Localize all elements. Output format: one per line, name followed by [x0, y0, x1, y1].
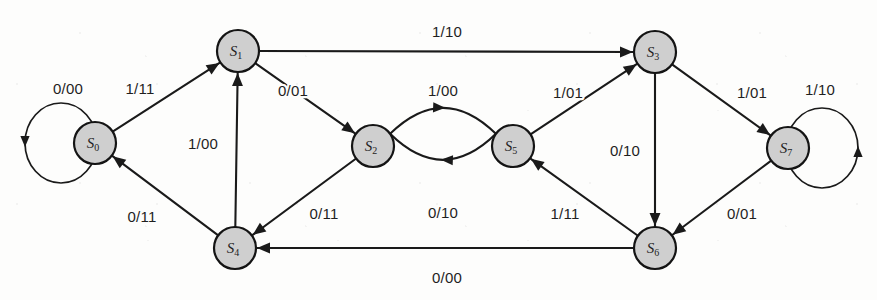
edge-S1-to-S2-label-text: 0/01	[278, 82, 308, 99]
state-node-s2[interactable]: S2	[352, 125, 394, 167]
edge-S4-to-S0-label: 0/110/11	[128, 208, 157, 225]
edge-S1-to-S2-arrowhead	[341, 121, 355, 133]
edge-S1-to-S3-label: 1/101/10	[432, 23, 462, 40]
node-layer: S0S1S2S3S4S5S6S7	[74, 30, 809, 269]
edge-S6-to-S4-arrowhead	[257, 243, 270, 254]
edge-S0-to-S0-arrowhead	[20, 136, 29, 147]
edge-S5-to-S2-arrowhead	[441, 155, 453, 165]
edge-S2-to-S4-label-text: 0/11	[310, 205, 339, 222]
state-node-s6[interactable]: S6	[634, 227, 676, 269]
edge-S6-to-S5-label-text: 1/11	[551, 205, 580, 222]
edge-S0-to-S1[interactable]	[113, 63, 220, 132]
edge-S1-to-S3-label-text: 1/10	[432, 23, 462, 40]
edge-S7-to-S7-arrowhead	[853, 146, 862, 157]
state-node-s0[interactable]: S0	[74, 122, 116, 164]
edge-S0-to-S0-label-text: 0/00	[53, 80, 83, 97]
edge-S3-to-S7-arrowhead	[756, 123, 770, 135]
state-subscript-s0: 0	[94, 142, 99, 153]
edge-S0-to-S1-label: 1/111/11	[126, 80, 155, 97]
edge-S2-to-S5-arrowhead	[433, 102, 445, 112]
edge-S6-to-S4-label: 0/000/00	[432, 269, 462, 286]
edge-S1-to-S3-arrowhead	[620, 46, 633, 57]
edge-S0-to-S1-arrowhead	[206, 63, 220, 75]
state-diagram-canvas: S0S1S2S3S4S5S6S7 0/000/001/111/111/101/1…	[0, 0, 877, 300]
edge-S1-to-S3[interactable]	[259, 46, 633, 57]
state-node-s4[interactable]: S4	[214, 227, 256, 269]
edge-S6-to-S5-arrowhead	[531, 159, 545, 171]
edge-S3-to-S6-arrowhead	[650, 213, 661, 226]
state-subscript-s7: 7	[787, 147, 792, 158]
edge-S7-to-S6-label-text: 0/01	[727, 205, 757, 222]
edge-S0-to-S1-label-text: 1/11	[126, 80, 155, 97]
edge-S7-to-S6[interactable]	[673, 161, 772, 235]
edge-S4-to-S1-label-text: 1/00	[188, 135, 218, 152]
edge-S0-to-S0-label: 0/000/00	[53, 80, 83, 97]
state-node-s7[interactable]: S7	[767, 127, 809, 169]
edge-S5-to-S3[interactable]	[531, 64, 637, 134]
edge-S4-to-S1[interactable]	[232, 73, 243, 227]
edge-S4-to-S0-arrowhead	[113, 156, 127, 168]
edge-S4-to-S0-label-text: 0/11	[128, 208, 157, 225]
edge-S6-to-S5[interactable]	[531, 159, 638, 236]
edge-S2-to-S4[interactable]	[253, 158, 356, 234]
edge-S5-to-S2[interactable]	[390, 134, 496, 165]
edge-S7-to-S6-label: 0/010/01	[727, 205, 757, 222]
state-subscript-s3: 3	[654, 51, 659, 62]
edge-S3-to-S6-label: 0/100/10	[610, 142, 640, 159]
edge-S2-to-S5-label-text: 1/00	[428, 82, 458, 99]
edge-S6-to-S5-label: 1/111/11	[551, 205, 580, 222]
state-subscript-s6: 6	[654, 247, 659, 258]
edge-S2-to-S4-arrowhead	[253, 223, 267, 235]
state-node-s1[interactable]: S1	[217, 30, 259, 72]
state-subscript-s5: 5	[512, 145, 517, 156]
edge-S1-to-S2-label: 0/010/01	[278, 82, 308, 99]
edge-S6-to-S4[interactable]	[257, 243, 634, 254]
state-subscript-s4: 4	[234, 247, 239, 258]
edge-S4-to-S1-label: 1/001/00	[188, 135, 218, 152]
edge-S4-to-S1-arrowhead	[232, 73, 243, 86]
state-subscript-s1: 1	[237, 50, 242, 61]
edge-S5-to-S2-label-text: 0/10	[428, 204, 458, 221]
edge-S5-to-S3-label-text: 1/01	[553, 84, 583, 101]
state-node-s5[interactable]: S5	[492, 125, 534, 167]
edge-S6-to-S4-label-text: 0/00	[432, 269, 462, 286]
state-node-s3[interactable]: S3	[634, 31, 676, 73]
edge-S5-to-S3-label: 1/011/01	[553, 84, 583, 101]
edge-S3-to-S7-label-text: 1/01	[737, 84, 767, 101]
edge-S5-to-S3-arrowhead	[623, 64, 637, 76]
edge-S2-to-S4-label: 0/110/11	[310, 205, 339, 222]
edge-S3-to-S6[interactable]	[650, 73, 661, 226]
edge-S3-to-S6-label-text: 0/10	[610, 142, 640, 159]
edge-S3-to-S7-label: 1/011/01	[737, 84, 767, 101]
edge-label-layer: 0/000/001/111/111/101/100/010/011/001/00…	[53, 23, 835, 286]
edge-S2-to-S5-label: 1/001/00	[428, 82, 458, 99]
edge-S7-to-S6-arrowhead	[673, 223, 687, 235]
edge-S7-to-S7-label: 1/101/10	[805, 81, 835, 98]
state-subscript-s2: 2	[372, 145, 377, 156]
fsm-svg: S0S1S2S3S4S5S6S7 0/000/001/111/111/101/1…	[0, 0, 877, 300]
edge-S2-to-S5[interactable]	[390, 102, 496, 133]
edge-S7-to-S7-label-text: 1/10	[805, 81, 835, 98]
edge-S5-to-S2-label: 0/100/10	[428, 204, 458, 221]
